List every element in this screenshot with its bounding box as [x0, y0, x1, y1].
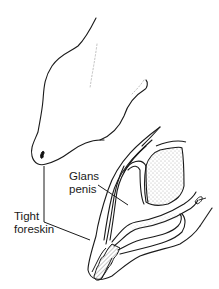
label-foreskin-line2: foreskin [14, 223, 54, 236]
corpus-stippled-region [145, 147, 185, 205]
label-glans-penis: Glans penis [69, 170, 99, 196]
diagram-illustration [0, 0, 219, 289]
constricted-foreskin-tip [94, 244, 120, 280]
foreskin-opening-mark [41, 151, 45, 158]
label-glans-line2: penis [69, 183, 99, 196]
label-foreskin-line1: Tight [14, 210, 54, 223]
label-glans-line1: Glans [69, 170, 99, 183]
label-tight-foreskin: Tight foreskin [14, 210, 54, 236]
